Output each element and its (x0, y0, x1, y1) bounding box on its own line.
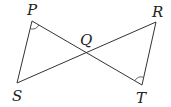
segment-rt (142, 22, 156, 85)
label-p: P (26, 1, 38, 19)
segment-ps (17, 21, 32, 83)
angle-mark-t (135, 77, 144, 81)
label-t: T (136, 89, 147, 107)
label-s: S (12, 87, 22, 105)
angle-mark-p (30, 25, 39, 29)
label-q: Q (80, 31, 92, 49)
geometry-diagram: P Q R S T (0, 0, 171, 107)
label-r: R (151, 3, 163, 21)
